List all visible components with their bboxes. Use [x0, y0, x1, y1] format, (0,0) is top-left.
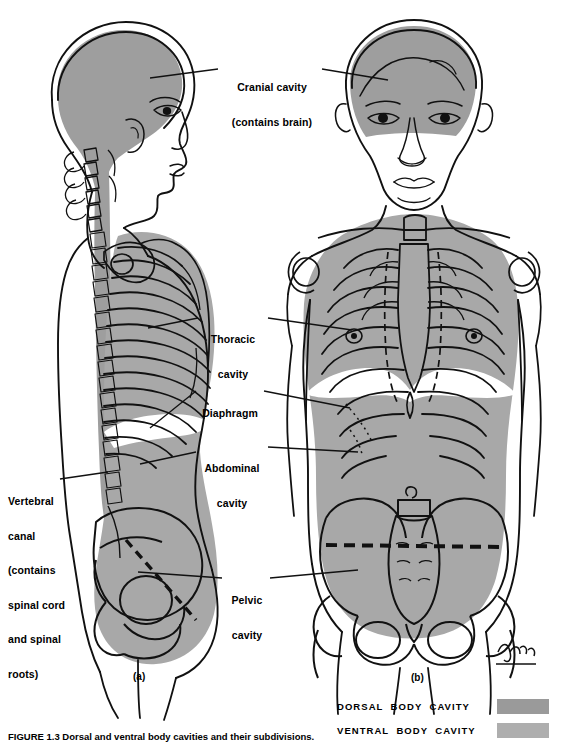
label-vertebral-canal-line2: canal [8, 531, 68, 543]
artist-signature [496, 645, 536, 665]
label-thoracic-cavity-line1: Thoracic [202, 334, 264, 346]
panel-a-lateral-view [52, 22, 218, 720]
leg-contour-lateral [100, 660, 176, 720]
label-abdominal-cavity-line2: cavity [198, 498, 266, 510]
panel-b-anterior-view [287, 20, 541, 714]
panel-b-label: (b) [411, 672, 424, 683]
label-diaphragm-line1: Diaphragm [198, 408, 262, 420]
label-cranial-cavity: Cranial cavity (contains brain) [222, 59, 322, 151]
panel-a-label: (a) [133, 671, 145, 682]
label-pelvic-cavity: Pelvic cavity [224, 572, 270, 664]
figure-caption: FIGURE 1.3 Dorsal and ventral body cavit… [8, 731, 568, 742]
legend-swatch-dorsal [497, 699, 549, 714]
label-abdominal-cavity-line1: Abdominal [198, 463, 266, 475]
label-pelvic-cavity-line1: Pelvic [224, 595, 270, 607]
label-vertebral-canal-line5: and spinal [8, 634, 68, 646]
label-vertebral-canal-line4: spinal cord [8, 600, 68, 612]
label-vertebral-canal: Vertebral canal (contains spinal cord an… [8, 473, 68, 703]
label-vertebral-canal-line1: Vertebral [8, 496, 68, 508]
label-vertebral-canal-line3: (contains [8, 565, 68, 577]
label-diaphragm: Diaphragm [198, 385, 262, 443]
label-thoracic-cavity-line2: cavity [202, 369, 264, 381]
label-abdominal-cavity: Abdominal cavity [198, 440, 266, 532]
legend-label-dorsal: DORSAL BODY CAVITY [337, 701, 497, 712]
ventral-cavity-shading-anterior [303, 214, 518, 639]
legend-row-dorsal: DORSAL BODY CAVITY [337, 697, 562, 716]
label-vertebral-canal-line6: roots) [8, 669, 68, 681]
label-cranial-cavity-line2: (contains brain) [222, 117, 322, 129]
figure-body-cavities: Cranial cavity (contains brain) Thoracic… [0, 0, 575, 742]
label-cranial-cavity-line1: Cranial cavity [222, 82, 322, 94]
label-pelvic-cavity-line2: cavity [224, 630, 270, 642]
